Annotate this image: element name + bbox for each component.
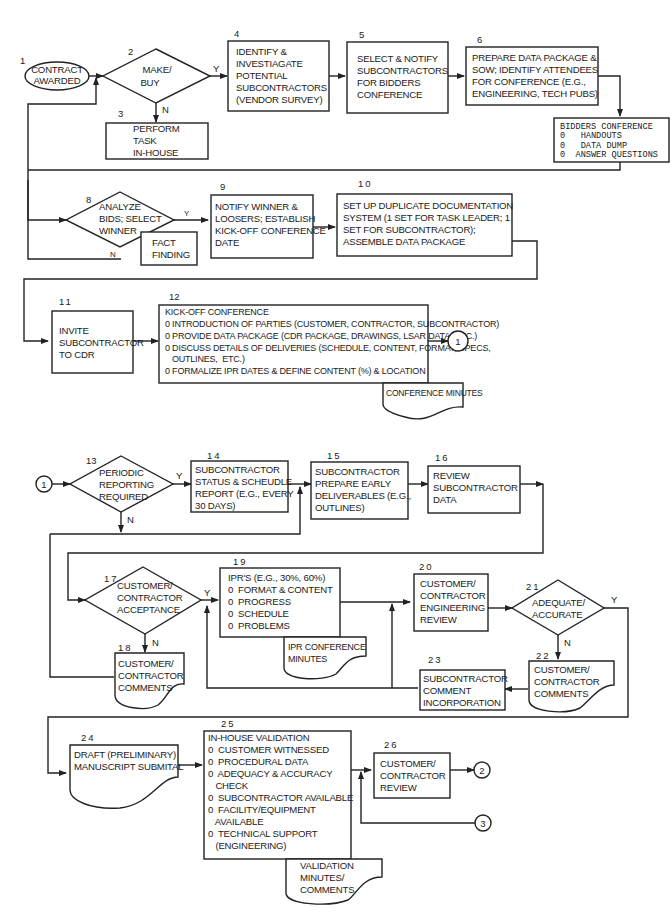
document-conference-minutes: CONFERENCE MINUTES <box>383 383 483 419</box>
svg-text:ACCURATE: ACCURATE <box>532 609 582 620</box>
svg-text:ENGINEERING, TECH PUBS): ENGINEERING, TECH PUBS) <box>472 88 598 99</box>
svg-text:PERFORM: PERFORM <box>133 123 180 134</box>
svg-text:1: 1 <box>20 55 25 66</box>
document-ipr-conference-minutes: IPR CONFERENCE MINUTES <box>284 637 366 679</box>
svg-text:TO CDR: TO CDR <box>59 349 95 360</box>
svg-text:SELECT & NOTIFY: SELECT & NOTIFY <box>357 53 439 64</box>
svg-text:LOOSERS; ESTABLISH: LOOSERS; ESTABLISH <box>215 213 315 224</box>
svg-text:ANALYZE: ANALYZE <box>99 201 141 212</box>
node-18-customer-comments: 18 CUSTOMER/ CONTRACTOR COMMENTS <box>115 642 184 708</box>
node-4-identify-subcontractors: 4 IDENTIFY & INVESTIAGATE POTENTIAL SUBC… <box>228 28 329 111</box>
svg-text:DATA: DATA <box>433 494 457 505</box>
svg-text:OUTLINES, ETC.): OUTLINES, ETC.) <box>165 354 245 364</box>
svg-text:18: 18 <box>118 642 133 653</box>
svg-text:REVIEW: REVIEW <box>433 470 471 481</box>
node-7-bidders-conference: BIDDERS CONFERENCE 0 HANDOUTS 0 DATA DUM… <box>554 118 669 162</box>
svg-text:STATUS & SCHEUDLE: STATUS & SCHEUDLE <box>195 476 292 487</box>
svg-text:CONTRACTOR: CONTRACTOR <box>118 670 184 681</box>
node-15-early-deliverables: 15 SUBCONTRACTOR PREPARE EARLY DELIVERAB… <box>311 450 411 519</box>
svg-text:0 FACILITY/EQUIPMENT: 0 FACILITY/EQUIPMENT <box>208 804 316 815</box>
svg-text:0 SUBCONTRACTOR AVAILABLE: 0 SUBCONTRACTOR AVAILABLE <box>208 792 353 803</box>
svg-text:COMMENTS: COMMENTS <box>300 884 354 895</box>
svg-text:3: 3 <box>118 108 123 119</box>
flow-lines <box>24 76 628 823</box>
svg-text:0 FORMALIZE IPR DATES & DEFINE: 0 FORMALIZE IPR DATES & DEFINE CONTENT (… <box>165 366 425 376</box>
svg-text:COMMENTS: COMMENTS <box>534 688 588 699</box>
node-19-iprs: 19 IPR'S (E.G., 30%, 60%) 0 FORMAT & CON… <box>220 556 340 637</box>
svg-text:ASSEMBLE DATA PACKAGE: ASSEMBLE DATA PACKAGE <box>343 236 465 247</box>
svg-text:COMMENTS: COMMENTS <box>118 682 172 693</box>
node-24-draft-manuscript: 24 DRAFT (PRELIMINARY) MANUSCRIPT SUBMIT… <box>70 732 184 808</box>
svg-text:FOR BIDDERS: FOR BIDDERS <box>357 77 420 88</box>
svg-text:BIDS; SELECT: BIDS; SELECT <box>99 213 162 224</box>
svg-text:ACCEPTANCE: ACCEPTANCE <box>117 604 180 615</box>
svg-text:IN-HOUSE VALIDATION: IN-HOUSE VALIDATION <box>208 732 310 743</box>
svg-text:0 ANSWER QUESTIONS: 0 ANSWER QUESTIONS <box>560 150 658 160</box>
svg-text:0 PROGRESS: 0 PROGRESS <box>228 596 291 607</box>
svg-text:Y: Y <box>204 587 211 598</box>
svg-text:SUBCONTRACTOR: SUBCONTRACTOR <box>315 466 400 477</box>
connector-1-out: 1 <box>448 331 468 351</box>
svg-text:N: N <box>152 637 159 648</box>
svg-text:REVIEW: REVIEW <box>420 614 458 625</box>
svg-text:16: 16 <box>435 452 450 463</box>
svg-text:SUBCONTRACTOR: SUBCONTRACTOR <box>59 337 144 348</box>
svg-text:MANUSCRIPT SUBMITAL: MANUSCRIPT SUBMITAL <box>74 761 184 772</box>
svg-text:CONFERENCE: CONFERENCE <box>357 89 422 100</box>
node-6-prepare-data-package: 6 PREPARE DATA PACKAGE & SOW; IDENTIFY A… <box>466 34 598 105</box>
svg-text:SUBCONTRACTOR: SUBCONTRACTOR <box>433 482 518 493</box>
svg-text:CONTRACTOR: CONTRACTOR <box>534 676 600 687</box>
svg-text:CONTRACTOR: CONTRACTOR <box>117 592 183 603</box>
svg-text:0 HANDOUTS: 0 HANDOUTS <box>560 131 622 141</box>
svg-text:TASK: TASK <box>133 135 157 146</box>
node-25-in-house-validation: 25 IN-HOUSE VALIDATION 0 CUSTOMER WITNES… <box>204 718 353 859</box>
svg-text:PREPARE DATA PACKAGE &: PREPARE DATA PACKAGE & <box>472 52 597 63</box>
svg-text:INVITE: INVITE <box>59 325 89 336</box>
svg-text:INCORPORATION: INCORPORATION <box>423 697 501 708</box>
svg-text:POTENTIAL: POTENTIAL <box>236 70 288 81</box>
svg-text:FACT: FACT <box>152 237 176 248</box>
svg-text:CHECK: CHECK <box>208 780 249 791</box>
node-3-perform-task-in-house: 3 PERFORM TASK IN-HOUSE <box>106 108 208 159</box>
svg-text:14: 14 <box>207 450 222 461</box>
svg-text:OUTLINES): OUTLINES) <box>315 502 364 513</box>
document-validation-minutes: VALIDATION MINUTES/ COMMENTS <box>286 859 382 904</box>
svg-text:CONFERENCE MINUTES: CONFERENCE MINUTES <box>386 388 483 398</box>
svg-text:0 SCHEDULE: 0 SCHEDULE <box>228 608 289 619</box>
svg-text:(VENDOR SURVEY): (VENDOR SURVEY) <box>236 94 322 105</box>
svg-text:REPORTING: REPORTING <box>99 479 154 490</box>
svg-text:(ENGINEERING): (ENGINEERING) <box>208 840 286 851</box>
svg-text:WINNER: WINNER <box>99 225 137 236</box>
svg-text:IDENTIFY &: IDENTIFY & <box>236 46 287 57</box>
svg-text:IPR'S (E.G., 30%, 60%): IPR'S (E.G., 30%, 60%) <box>228 572 325 583</box>
svg-text:KICK-OFF CONFERENCE: KICK-OFF CONFERENCE <box>215 225 326 236</box>
svg-text:MAKE/: MAKE/ <box>143 64 172 75</box>
node-14-status-report: 14 SUBCONTRACTOR STATUS & SCHEUDLE REPOR… <box>191 450 294 512</box>
node-2-make-buy-decision: 2 MAKE/ BUY Y N <box>103 46 220 115</box>
svg-text:CONTRACT: CONTRACT <box>31 64 83 75</box>
svg-text:DATE: DATE <box>215 237 239 248</box>
svg-text:2: 2 <box>479 765 484 776</box>
svg-text:N: N <box>110 250 116 259</box>
svg-text:CUSTOMER/: CUSTOMER/ <box>117 580 173 591</box>
node-5-select-notify-subcontractors: 5 SELECT & NOTIFY SUBCONTRACTORS FOR BID… <box>347 29 448 113</box>
svg-text:CONTRACTOR: CONTRACTOR <box>420 590 486 601</box>
svg-text:0 PROBLEMS: 0 PROBLEMS <box>228 620 290 631</box>
svg-text:SOW; IDENTIFY ATTENDEES: SOW; IDENTIFY ATTENDEES <box>472 64 598 75</box>
svg-text:19: 19 <box>233 556 248 567</box>
svg-text:21: 21 <box>526 581 541 592</box>
node-13-periodic-reporting-decision: 13 PERIODIC REPORTING REQUIRED Y N <box>70 455 183 525</box>
svg-text:SET FOR SUBCONTRACTOR);: SET FOR SUBCONTRACTOR); <box>343 224 476 235</box>
svg-text:1: 1 <box>455 336 460 347</box>
svg-text:MINUTES/: MINUTES/ <box>300 872 345 883</box>
svg-text:PERIODIC: PERIODIC <box>99 467 144 478</box>
svg-text:SUBCONTRACTOR: SUBCONTRACTOR <box>423 673 508 684</box>
svg-text:CUSTOMER/: CUSTOMER/ <box>420 578 476 589</box>
svg-text:CUSTOMER/: CUSTOMER/ <box>534 664 590 675</box>
svg-text:FINDING: FINDING <box>152 249 190 260</box>
svg-text:25: 25 <box>221 718 236 729</box>
svg-text:26: 26 <box>384 739 399 750</box>
svg-text:ENGINEERING: ENGINEERING <box>420 602 485 613</box>
svg-text:N: N <box>127 514 134 525</box>
svg-text:FOR CONFERENCE (E.G.,: FOR CONFERENCE (E.G., <box>472 76 586 87</box>
